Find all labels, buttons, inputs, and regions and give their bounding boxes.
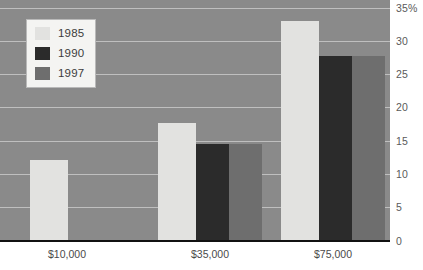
legend-label-1985: 1985 (58, 28, 84, 40)
bar-1990-35000 (196, 144, 229, 241)
legend-swatch-1985 (35, 27, 50, 40)
bar-1985-35000 (158, 123, 196, 241)
legend-item-1990: 1990 (35, 47, 84, 60)
bar-1997-35000 (229, 144, 262, 241)
y-tick-label-20: 20 (396, 102, 408, 113)
x-tick-label-75000: $75,000 (283, 249, 383, 260)
legend-swatch-1990 (35, 47, 50, 60)
bar-1997-75000 (352, 56, 385, 241)
legend: 1985 1990 1997 (26, 19, 96, 88)
bar-1985-75000 (281, 21, 319, 241)
bar-1985-10000 (30, 160, 68, 241)
legend-label-1997: 1997 (58, 68, 84, 80)
y-tick-label-25: 25 (396, 69, 408, 80)
y-tick-label-15: 15 (396, 136, 408, 147)
legend-item-1985: 1985 (35, 27, 84, 40)
y-tick-label-5: 5 (396, 202, 402, 213)
legend-item-1997: 1997 (35, 67, 84, 80)
x-tick-label-35000: $35,000 (160, 249, 260, 260)
x-tick-label-10000: $10,000 (17, 249, 117, 260)
bar-1990-75000 (319, 56, 352, 241)
legend-swatch-1997 (35, 67, 50, 80)
bar-chart: 35% 30 25 20 15 10 5 0 $10,000 $35,000 $… (0, 0, 423, 270)
x-axis-line (0, 240, 390, 242)
y-tick-label-35: 35% (396, 3, 418, 14)
y-tick-label-10: 10 (396, 169, 408, 180)
y-tick-label-30: 30 (396, 36, 408, 47)
y-tick-label-0: 0 (396, 236, 402, 247)
gridline-35 (0, 8, 390, 9)
legend-label-1990: 1990 (58, 48, 84, 60)
